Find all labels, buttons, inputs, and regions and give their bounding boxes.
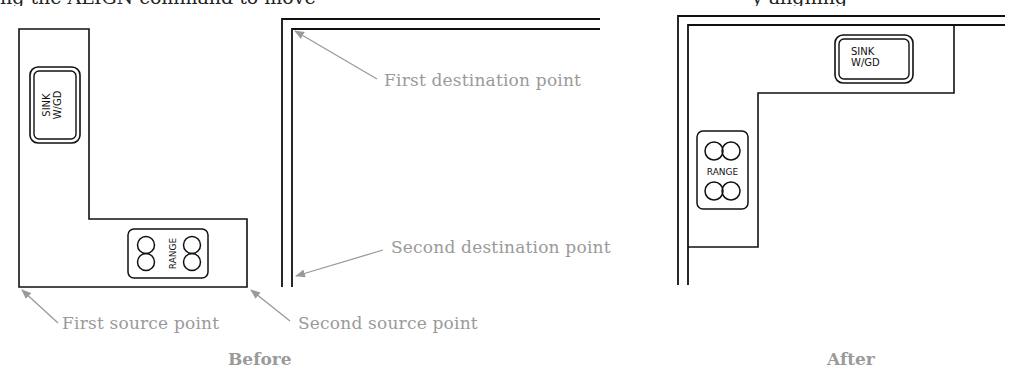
after-counter-outline: [688, 25, 954, 247]
after-sink-label-1: SINK: [851, 46, 875, 57]
after-range-icon: RANGE: [697, 131, 748, 209]
before-sink-icon: SINK W/GD: [30, 67, 80, 143]
after-sink-label-2: W/GD: [851, 57, 880, 68]
first-source-label: First source point: [62, 313, 219, 333]
before-range-icon: RANGE: [128, 229, 208, 278]
before-sink-label-1: SINK: [41, 93, 52, 117]
first-source-arrow: [22, 290, 58, 323]
after-caption: After: [827, 349, 875, 369]
second-source-label: Second source point: [298, 313, 478, 333]
first-destination-arrow: [295, 31, 377, 79]
second-source-arrow: [251, 290, 290, 321]
after-sink-icon: SINK W/GD: [835, 35, 913, 83]
after-range-label: RANGE: [707, 167, 739, 177]
before-sink-label-2: W/GD: [52, 90, 63, 119]
first-destination-label: First destination point: [384, 70, 581, 90]
after-cabinet: [688, 25, 954, 247]
second-destination-arrow: [296, 250, 383, 276]
before-caption: Before: [228, 349, 292, 369]
after-walls: [678, 16, 1005, 285]
before-range-label: RANGE: [168, 237, 178, 269]
second-destination-label: Second destination point: [391, 237, 611, 257]
